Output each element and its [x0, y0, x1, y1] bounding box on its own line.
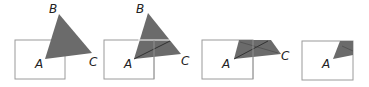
label-a: A — [34, 57, 43, 71]
label-c: C — [181, 54, 190, 68]
label-a: A — [221, 57, 230, 71]
panel-1: B A C — [15, 2, 98, 79]
label-c: C — [89, 55, 98, 69]
panel-2: B A C — [104, 2, 190, 79]
triangle-abc — [134, 13, 181, 59]
panel-3: A C — [202, 40, 290, 79]
clipped-polygon — [234, 40, 281, 59]
clipping-diagram: B A C B A C A C A — [0, 0, 369, 87]
label-b: B — [136, 2, 144, 16]
clipped-polygon — [333, 41, 353, 59]
label-a: A — [123, 57, 132, 71]
label-b: B — [49, 2, 57, 16]
panel-4: A — [302, 41, 353, 80]
label-a: A — [321, 57, 330, 71]
triangle-abc — [45, 14, 92, 59]
label-c: C — [281, 49, 290, 63]
